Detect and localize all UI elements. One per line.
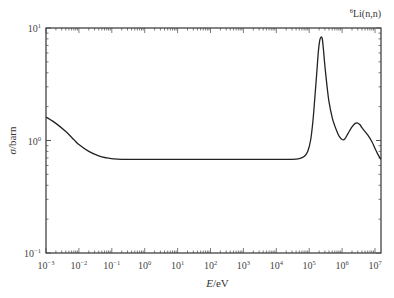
- x-tick-label: 10−1: [103, 259, 120, 271]
- x-tick-label: 10−3: [38, 259, 55, 271]
- y-tick-label: 10−1: [24, 247, 41, 259]
- minor-ticks: [46, 28, 381, 253]
- x-tick-label: 107: [368, 259, 382, 271]
- x-tick-label: 101: [171, 259, 184, 271]
- y-tick-label: 100: [28, 135, 41, 147]
- cross-section-chart: 6Li(n,n) 10−310−210−11001011021031041051…: [0, 0, 394, 298]
- x-axis-title: E/eV: [205, 277, 229, 289]
- reaction-annotation: 6Li(n,n): [350, 7, 381, 20]
- x-tick-label: 102: [204, 259, 217, 271]
- y-axis-label: σ/barn: [6, 126, 18, 155]
- axes-box: [46, 28, 381, 253]
- x-axis-label: E/eV: [205, 277, 229, 289]
- y-axis-title: σ/barn: [6, 126, 18, 155]
- data-series: [46, 37, 381, 159]
- plot-frame: [46, 28, 381, 253]
- x-axis-tick-labels: 10−310−210−1100101102103104105106107: [38, 259, 383, 271]
- x-tick-label: 10−2: [70, 259, 87, 271]
- cross-section-curve: [46, 37, 381, 159]
- y-axis-tick-labels: 10−1100101: [24, 22, 41, 259]
- reaction-label: 6Li(n,n): [350, 7, 381, 20]
- y-tick-label: 101: [28, 22, 41, 34]
- x-tick-label: 106: [335, 259, 349, 271]
- x-tick-label: 105: [303, 259, 316, 271]
- x-tick-label: 100: [138, 259, 151, 271]
- x-tick-label: 103: [237, 259, 250, 271]
- x-tick-label: 104: [270, 259, 284, 271]
